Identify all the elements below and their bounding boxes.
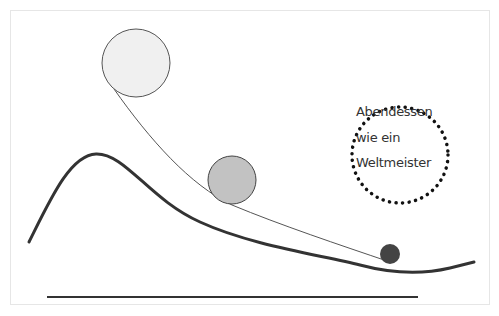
small-ball [380,244,400,264]
label-line-2: wie ein [356,130,400,145]
large-ball [102,29,170,97]
label-line-1: Abendessen [356,104,432,119]
medium-ball [208,156,256,204]
label-line-3: Weltmeister [356,155,431,170]
